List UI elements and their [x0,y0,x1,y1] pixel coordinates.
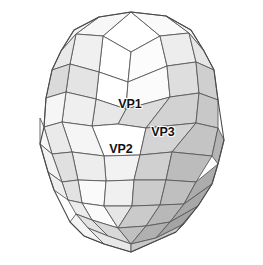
polyhedron-face [167,62,199,97]
figure-root: VP1 VP2 VP3 [0,0,263,265]
face-label-vp2: VP2 [109,142,133,156]
face-label-vp1: VP1 [118,97,142,111]
polyhedron-face [104,180,134,206]
face-label-vp3: VP3 [151,125,175,139]
zonohedron-illustration: VP1 VP2 VP3 [0,0,263,265]
polyhedron-face [134,152,172,180]
